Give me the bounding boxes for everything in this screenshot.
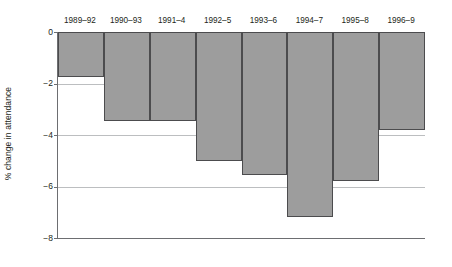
y-tick-label: −4 bbox=[33, 131, 53, 140]
bar[interactable] bbox=[150, 32, 196, 121]
bar-slot bbox=[333, 32, 379, 238]
x-tick-label: 1991–4 bbox=[149, 14, 195, 28]
y-tick-label: 0 bbox=[33, 28, 53, 37]
x-tick-label: 1989–92 bbox=[57, 14, 103, 28]
bar-slot bbox=[287, 32, 333, 238]
bar-slot bbox=[379, 32, 425, 238]
bar[interactable] bbox=[58, 32, 104, 77]
bar[interactable] bbox=[287, 32, 333, 217]
bar-slot bbox=[242, 32, 288, 238]
bar-chart: % change in attendance 0 −2 −4 −6 −8 198… bbox=[0, 0, 452, 267]
bar-slot bbox=[58, 32, 104, 238]
y-axis-title: % change in attendance bbox=[0, 0, 16, 267]
y-tickmark bbox=[54, 238, 58, 239]
x-tick-label: 1995–8 bbox=[332, 14, 378, 28]
bar-slot bbox=[196, 32, 242, 238]
y-axis-tick-labels: 0 −2 −4 −6 −8 bbox=[31, 0, 53, 267]
y-tick-label: −2 bbox=[33, 79, 53, 88]
x-tick-label: 1996–9 bbox=[378, 14, 424, 28]
bar[interactable] bbox=[333, 32, 379, 181]
bar[interactable] bbox=[196, 32, 242, 161]
x-tick-label: 1994–7 bbox=[286, 14, 332, 28]
y-tick-label: −8 bbox=[33, 234, 53, 243]
x-axis-category-labels: 1989–92 1990–93 1991–4 1992–5 1993–6 199… bbox=[57, 14, 424, 28]
bar-slot bbox=[104, 32, 150, 238]
plot-area bbox=[57, 32, 425, 239]
bar[interactable] bbox=[242, 32, 288, 175]
bar-slot bbox=[150, 32, 196, 238]
x-tick-label: 1993–6 bbox=[241, 14, 287, 28]
bar[interactable] bbox=[104, 32, 150, 121]
x-tick-label: 1992–5 bbox=[195, 14, 241, 28]
bar[interactable] bbox=[379, 32, 425, 130]
y-tick-label: −6 bbox=[33, 182, 53, 191]
x-tick-label: 1990–93 bbox=[103, 14, 149, 28]
bar-series bbox=[58, 32, 425, 238]
